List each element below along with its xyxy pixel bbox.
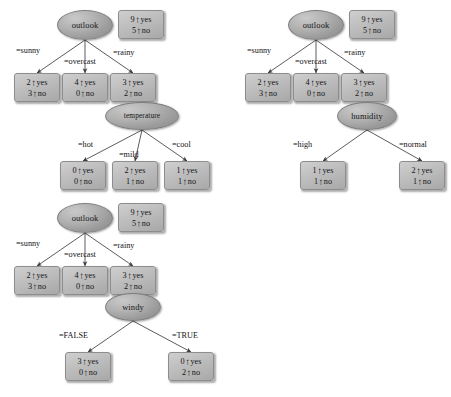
stats-yes-row: 3↑yes [354,77,375,88]
up-arrow-icon: ↑ [130,177,136,186]
yes-label: yes [87,356,98,367]
up-arrow-icon: ↑ [135,15,141,24]
tree-temperature-root-node[interactable]: outlook [57,10,113,40]
edge-label-mild: =mild [119,150,139,159]
tree-windy-root-node[interactable]: outlook [57,203,113,233]
stats-no-row: 2↑no [182,367,200,378]
stats-yes-row: 4↑yes [75,77,96,88]
node-label: windy [122,303,144,312]
node-label: outlook [72,214,99,223]
up-arrow-icon: ↑ [83,368,89,377]
edge-label-cool: =cool [172,140,191,149]
no-label: no [142,25,150,36]
up-arrow-icon: ↑ [79,271,85,280]
tree-humidity-leaf-overcast: 4↑yes 0↑no [293,73,339,102]
stats-no-row: 0↑no [76,88,94,99]
up-arrow-icon: ↑ [366,15,372,24]
edge-label-rainy: =rainy [113,48,134,57]
no-label: no [38,88,46,99]
up-arrow-icon: ↑ [182,177,188,186]
stats-yes-row: 4↑yes [306,77,327,88]
stats-no-row: 3↑no [28,88,46,99]
yes-label: yes [36,270,47,281]
yes-label: yes [140,14,151,25]
up-arrow-icon: ↑ [359,89,365,98]
stats-no-row: 0↑no [307,88,325,99]
tree-windy-leaf-true: 0↑yes 2↑no [168,352,214,381]
up-arrow-icon: ↑ [127,271,133,280]
stats-no-row: 0↑no [76,281,94,292]
edge-label-high: =high [293,140,312,149]
edge-label-rainy: =rainy [113,241,134,250]
tree-humidity-split-node[interactable]: humidity [337,102,397,130]
edge-label-overcast: =overcast [64,57,96,66]
up-arrow-icon: ↑ [181,166,187,175]
stats-yes-row: 0↑yes [181,356,202,367]
up-arrow-icon: ↑ [77,166,83,175]
yes-label: yes [190,356,201,367]
yes-label: yes [82,165,93,176]
stats-yes-row: 9↑yes [362,14,383,25]
stats-no-row: 3↑no [259,88,277,99]
stats-yes-row: 0↑yes [73,165,94,176]
stats-no-row: 5↑no [132,218,150,229]
decision-tree-diagram: outlook 9↑yes 5↑no =sunny =overcast =rai… [0,0,451,397]
no-label: no [136,176,144,187]
yes-label: yes [315,77,326,88]
up-arrow-icon: ↑ [80,282,86,291]
tree-humidity-root-node[interactable]: outlook [288,10,344,40]
tree-windy-leaf-sunny: 2↑yes 3↑no [14,266,60,295]
edge-label-true: =TRUE [172,331,198,340]
up-arrow-icon: ↑ [32,89,38,98]
stats-no-row: 1↑no [314,176,332,187]
tree-temperature-leaf-rainy: 3↑yes 2↑no [110,73,156,102]
stats-yes-row: 4↑yes [75,270,96,281]
edge-label-sunny: =sunny [16,46,40,55]
up-arrow-icon: ↑ [31,78,37,87]
up-arrow-icon: ↑ [318,177,324,186]
stats-no-row: 3↑no [28,281,46,292]
tree-windy-leaf-false: 3↑yes 0↑no [65,352,111,381]
stats-yes-row: 9↑yes [131,14,152,25]
yes-label: yes [421,165,432,176]
tree-windy-split-node[interactable]: windy [105,293,161,321]
stats-no-row: 2↑no [124,281,142,292]
no-label: no [373,25,381,36]
up-arrow-icon: ↑ [317,166,323,175]
stats-yes-row: 1↑yes [177,165,198,176]
no-label: no [142,218,150,229]
tree-humidity-root-stats: 9↑yes 5↑no [349,10,395,39]
no-label: no [38,281,46,292]
tree-windy-leaf-rainy: 3↑yes 2↑no [110,266,156,295]
up-arrow-icon: ↑ [82,357,88,366]
up-arrow-icon: ↑ [311,89,317,98]
up-arrow-icon: ↑ [367,26,373,35]
node-label: temperature [124,112,160,119]
yes-label: yes [371,14,382,25]
stats-yes-row: 2↑yes [27,270,48,281]
tree-temperature-leaf-mild: 2↑yes 1↑no [112,161,158,190]
tree-temperature-leaf-cool: 1↑yes 1↑no [164,161,210,190]
stats-yes-row: 3↑yes [78,356,99,367]
tree-humidity-leaf-rainy: 3↑yes 2↑no [341,73,387,102]
edge-label-sunny: =sunny [247,46,271,55]
stats-yes-row: 1↑yes [313,165,334,176]
up-arrow-icon: ↑ [31,271,37,280]
tree-temperature-leaf-hot: 0↑yes 0↑no [60,161,106,190]
no-label: no [423,176,431,187]
up-arrow-icon: ↑ [78,177,84,186]
stats-yes-row: 3↑yes [123,270,144,281]
stats-no-row: 1↑no [126,176,144,187]
node-label: outlook [72,21,99,30]
edge-label-overcast: =overcast [295,57,327,66]
stats-yes-row: 3↑yes [123,77,144,88]
stats-yes-row: 9↑yes [131,207,152,218]
node-label: humidity [351,112,383,121]
yes-label: yes [186,165,197,176]
up-arrow-icon: ↑ [185,357,191,366]
stats-no-row: 0↑no [79,367,97,378]
stats-yes-row: 2↑yes [412,165,433,176]
tree-temperature-split-node[interactable]: temperature [105,102,179,130]
stats-no-row: 1↑no [178,176,196,187]
tree-windy-leaf-overcast: 4↑yes 0↑no [62,266,108,295]
